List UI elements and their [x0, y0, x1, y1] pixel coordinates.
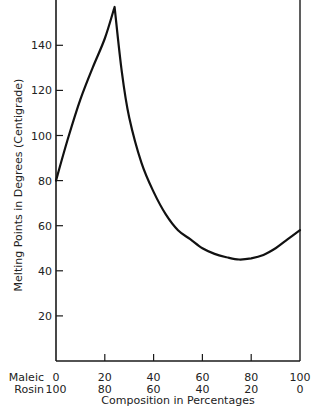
x-row-label-rosin: Rosin — [14, 383, 44, 396]
y-tick-label: 80 — [38, 175, 52, 188]
x-tick-label-rosin: 100 — [46, 383, 67, 396]
x-tick-label-rosin: 0 — [297, 383, 304, 396]
y-tick-label: 140 — [31, 39, 52, 52]
y-tick-label: 100 — [31, 130, 52, 143]
y-tick-label: 20 — [38, 310, 52, 323]
y-tick-label: 60 — [38, 220, 52, 233]
y-tick-label: 40 — [38, 265, 52, 278]
y-ticks: 20406080100120140 — [31, 39, 63, 323]
y-tick-label: 120 — [31, 84, 52, 97]
y-axis-title: Melting Points in Degrees (Centigrade) — [12, 79, 25, 292]
x-axis-title: Composition in Percentages — [101, 394, 255, 407]
melting-point-curve — [56, 7, 300, 260]
melting-point-chart: 20406080100120140 0100208040606040802010… — [0, 0, 311, 407]
